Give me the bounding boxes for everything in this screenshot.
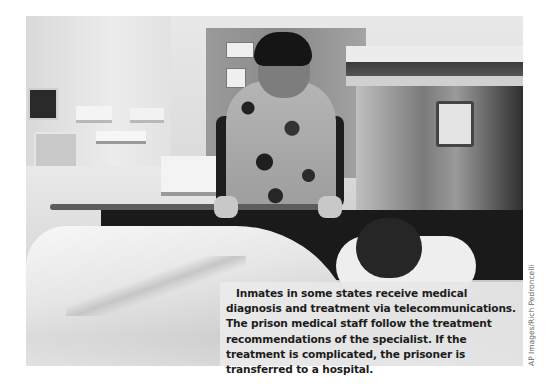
monitor — [436, 101, 474, 147]
photo-credit: AP Images/Rich Pedroncelli — [527, 265, 536, 366]
figure-caption-box: Inmates in some states receive medical d… — [220, 282, 523, 366]
sheet-fold — [66, 256, 246, 316]
notice-sign — [226, 42, 254, 58]
wall-frame — [28, 88, 58, 120]
patient-head — [356, 218, 422, 278]
side-table — [96, 131, 146, 144]
sink — [130, 108, 164, 123]
nurse-hand — [318, 196, 342, 218]
nurse-hand — [214, 196, 238, 218]
figure-caption: Inmates in some states receive medical d… — [226, 286, 521, 377]
background-bed — [161, 156, 221, 196]
nurse-scrubs — [226, 81, 336, 216]
nurse-hair — [254, 32, 312, 66]
bed-rail — [50, 204, 340, 210]
supply-shelf — [346, 46, 523, 86]
box-fan — [34, 132, 78, 168]
notice-sign — [226, 68, 246, 88]
sink — [76, 106, 112, 123]
